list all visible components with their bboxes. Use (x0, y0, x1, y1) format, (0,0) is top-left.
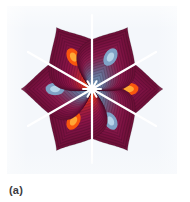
rosette-contour-svg (7, 6, 177, 174)
plot-canvas (7, 6, 177, 174)
figure-panel-a: (a) (0, 0, 190, 202)
figure-caption: (a) (9, 183, 23, 197)
plot-image (7, 6, 177, 174)
